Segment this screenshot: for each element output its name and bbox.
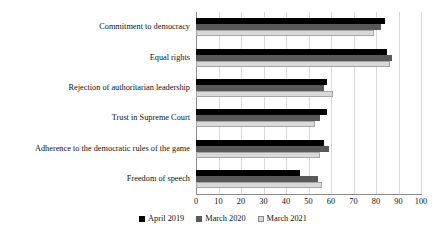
black-square-icon — [139, 216, 145, 222]
bar — [196, 121, 315, 127]
gridline-90 — [399, 12, 400, 194]
tick-label: 50 — [304, 196, 312, 208]
category-label: Trust in Supreme Court — [112, 113, 190, 123]
bar-group — [196, 170, 421, 188]
tick-label: 70 — [349, 196, 357, 208]
dark-gray-square-icon — [196, 216, 202, 222]
gridline-70 — [354, 12, 355, 194]
bar — [196, 61, 390, 67]
gridline-0 — [196, 12, 197, 194]
gridline-60 — [331, 12, 332, 194]
horizontal-bar-chart: Commitment to democracyEqual rightsRejec… — [0, 0, 446, 237]
gridline-50 — [309, 12, 310, 194]
bar — [196, 152, 320, 158]
category-label: Adherence to the democratic rules of the… — [35, 144, 190, 154]
legend-entry: April 2019 — [139, 214, 184, 223]
bar-group — [196, 109, 421, 127]
tick-label: 30 — [259, 196, 267, 208]
bar — [196, 91, 333, 97]
legend-label: April 2019 — [148, 214, 184, 223]
gridline-20 — [241, 12, 242, 194]
tick-label: 90 — [394, 196, 402, 208]
category-label: Equal rights — [150, 53, 190, 63]
legend-label: March 2020 — [205, 214, 245, 223]
legend-entry: March 2021 — [258, 214, 307, 223]
gridline-30 — [264, 12, 265, 194]
tick-label: 40 — [282, 196, 290, 208]
tick-label: 10 — [214, 196, 222, 208]
value-axis-tick-labels: 0102030405060708090100 — [196, 196, 422, 210]
bar-group — [196, 79, 421, 97]
bar-group — [196, 140, 421, 158]
chart-legend: April 2019March 2020March 2021 — [0, 214, 446, 223]
value-axis-baseline — [196, 194, 422, 195]
tick-label: 0 — [194, 196, 198, 208]
gridline-80 — [376, 12, 377, 194]
tick-label: 20 — [237, 196, 245, 208]
gridline-40 — [286, 12, 287, 194]
bar-group — [196, 18, 421, 36]
category-axis: Commitment to democracyEqual rightsRejec… — [0, 12, 193, 194]
gridline-100 — [421, 12, 422, 194]
light-gray-square-icon — [258, 216, 264, 222]
legend-label: March 2021 — [267, 214, 307, 223]
gridline-10 — [219, 12, 220, 194]
category-label: Freedom of speech — [127, 174, 190, 184]
bar — [196, 182, 322, 188]
tick-label: 100 — [415, 196, 427, 208]
category-label: Commitment to democracy — [99, 22, 190, 32]
tick-label: 80 — [372, 196, 380, 208]
bar-group — [196, 49, 421, 67]
category-label: Rejection of authoritarian leadership — [69, 83, 190, 93]
bar — [196, 30, 374, 36]
tick-label: 60 — [327, 196, 335, 208]
plot-area — [196, 12, 421, 194]
legend-entry: March 2020 — [196, 214, 245, 223]
